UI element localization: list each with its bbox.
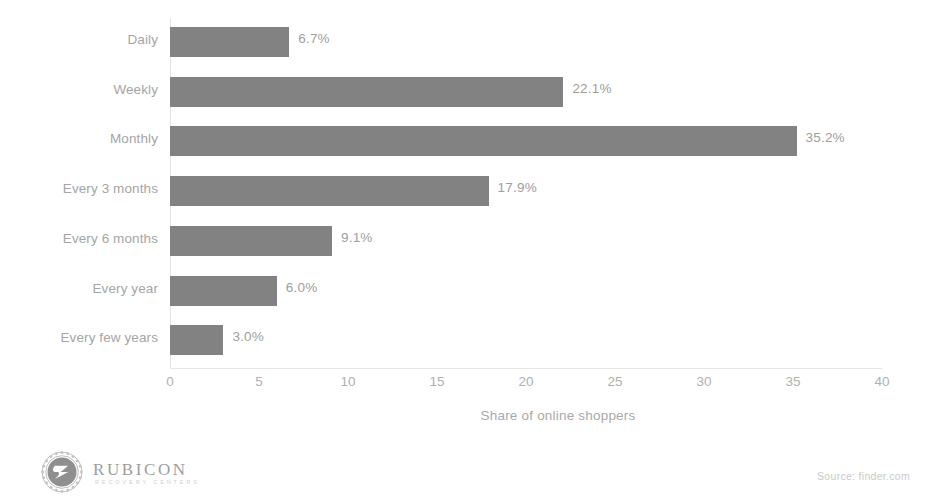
bar <box>170 77 563 107</box>
bar-row: 3.0% <box>170 316 882 364</box>
bar <box>170 226 332 256</box>
x-tick-label: 25 <box>607 374 622 389</box>
bar <box>170 276 277 306</box>
x-tick-label: 30 <box>696 374 711 389</box>
x-tick-label: 0 <box>166 374 174 389</box>
y-axis-label: Every year <box>0 281 158 296</box>
x-axis-line <box>170 368 882 369</box>
bar-row: 17.9% <box>170 167 882 215</box>
x-axis-tick-labels: 0510152025303540 <box>170 374 882 396</box>
plot-area: 6.7%22.1%35.2%17.9%9.1%6.0%3.0% <box>170 18 882 366</box>
x-axis-title: Share of online shoppers <box>0 408 932 423</box>
bar <box>170 325 223 355</box>
bar-value-label: 9.1% <box>341 230 373 245</box>
x-tick-label: 35 <box>785 374 800 389</box>
x-tick-label: 15 <box>429 374 444 389</box>
bar <box>170 27 289 57</box>
bar-row: 35.2% <box>170 117 882 165</box>
x-tick-label: 5 <box>255 374 263 389</box>
bar-row: 6.7% <box>170 18 882 66</box>
source-attribution: Source: finder.com <box>817 470 910 482</box>
bar-value-label: 35.2% <box>806 130 845 145</box>
bar-row: 22.1% <box>170 68 882 116</box>
logo-tagline: RECOVERY CENTERS <box>93 479 200 486</box>
logo-wordmark: RUBICON <box>93 461 200 479</box>
bar-value-label: 3.0% <box>232 329 264 344</box>
bar <box>170 126 797 156</box>
y-axis-label: Every 3 months <box>0 181 158 196</box>
bar-value-label: 6.7% <box>298 31 330 46</box>
y-axis-label: Every 6 months <box>0 231 158 246</box>
bar <box>170 176 489 206</box>
y-axis-label: Every few years <box>0 330 158 345</box>
bar-row: 9.1% <box>170 217 882 265</box>
rubicon-logo-text: RUBICON RECOVERY CENTERS <box>93 459 200 485</box>
x-tick-label: 20 <box>518 374 533 389</box>
bar-row: 6.0% <box>170 267 882 315</box>
rubicon-logo: RUBICON RECOVERY CENTERS <box>40 450 200 494</box>
bar-value-label: 17.9% <box>498 180 537 195</box>
y-axis-label: Monthly <box>0 131 158 146</box>
bar-value-label: 22.1% <box>572 81 611 96</box>
x-tick-label: 10 <box>340 374 355 389</box>
rubicon-laurel-wreath-icon <box>40 450 84 494</box>
chart-footer: RUBICON RECOVERY CENTERS Source: finder.… <box>0 448 932 503</box>
x-tick-label: 40 <box>874 374 889 389</box>
y-axis-label: Weekly <box>0 82 158 97</box>
bar-value-label: 6.0% <box>286 280 318 295</box>
horizontal-bar-chart: DailyWeeklyMonthlyEvery 3 monthsEvery 6 … <box>0 0 932 503</box>
y-axis-category-labels: DailyWeeklyMonthlyEvery 3 monthsEvery 6 … <box>0 18 158 366</box>
x-axis-title-text: Share of online shoppers <box>481 408 636 423</box>
y-axis-label: Daily <box>0 32 158 47</box>
